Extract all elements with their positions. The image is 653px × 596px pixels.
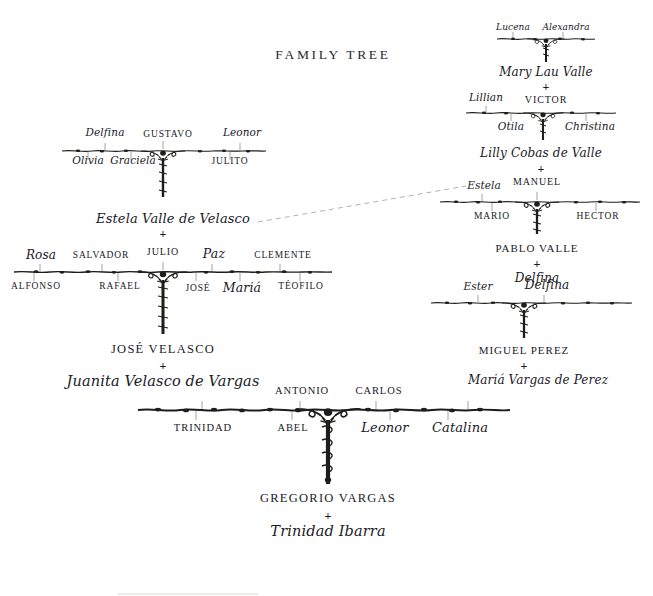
- person-hector: HECTOR: [577, 212, 620, 222]
- link-estela-crossref: [258, 186, 466, 222]
- person-maria-child: Mariá: [223, 282, 261, 295]
- branch-julio: [14, 262, 332, 334]
- person-lilly-cobas-de-valle: Lilly Cobas de Valle: [480, 147, 602, 159]
- branch-miguel-perez: [431, 295, 632, 338]
- union-plus-jose-juanita: +: [160, 360, 167, 372]
- person-graciela: Graciela: [110, 155, 156, 166]
- person-julito: JULITO: [211, 157, 248, 167]
- union-plus-miguel-maria: +: [521, 360, 528, 372]
- person-jose-child: JOSÉ: [185, 284, 210, 294]
- union-plus-pablo-delfina: +: [534, 258, 541, 270]
- person-leonor-bottom: Leonor: [361, 421, 408, 434]
- person-miguel-perez: MIGUEL PEREZ: [479, 345, 570, 356]
- branch-antonio-carlos: [138, 401, 510, 484]
- person-gustavo: GUSTAVO: [143, 130, 192, 140]
- person-antonio: ANTONIO: [275, 386, 329, 397]
- person-carlos: CARLOS: [355, 386, 402, 397]
- person-jose-velasco: JOSÉ VELASCO: [111, 343, 215, 356]
- person-otila: Otila: [498, 121, 524, 132]
- person-rafael: RAFAEL: [99, 282, 140, 292]
- person-estela-valle-de-velasco: Estela Valle de Velasco: [96, 212, 250, 225]
- person-lucena: Lucena: [496, 23, 530, 32]
- union-plus-lilly-manuel: +: [538, 163, 545, 175]
- person-mary-lau-valle: Mary Lau Valle: [499, 66, 593, 78]
- person-trinidad: TRINIDAD: [174, 423, 232, 434]
- person-paz: Paz: [203, 248, 225, 261]
- person-pablo-valle: PABLO VALLE: [495, 243, 578, 254]
- person-catalina: Catalina: [432, 421, 488, 434]
- person-manuel: MANUEL: [513, 177, 561, 187]
- person-leonor-top: Leonor: [223, 127, 261, 138]
- person-abel: ABEL: [277, 423, 308, 434]
- person-victor: VICTOR: [525, 95, 567, 105]
- person-salvador: SALVADOR: [73, 251, 129, 261]
- branch-artwork: [0, 0, 653, 596]
- person-ester: Ester: [463, 281, 492, 292]
- person-mario: MARIO: [474, 212, 510, 222]
- union-plus-estela-julio: +: [160, 228, 167, 240]
- person-rosa: Rosa: [26, 249, 56, 261]
- person-olivia: Olivia: [72, 155, 104, 166]
- person-delfina-perez: Delfina: [525, 279, 570, 291]
- family-tree-canvas: FAMILY TREE Lucena Alexandra Mary Lau Va…: [0, 0, 653, 596]
- person-trinidad-ibarra: Trinidad Ibarra: [270, 524, 385, 539]
- branch-gustavo: [62, 141, 266, 197]
- person-delfina-left: Delfina: [86, 127, 125, 138]
- person-gregorio-vargas: GREGORIO VARGAS: [260, 492, 396, 505]
- page-title: FAMILY TREE: [275, 48, 390, 62]
- person-juanita-velasco-de-vargas: Juanita Velasco de Vargas: [67, 374, 260, 389]
- person-clemente: CLEMENTE: [254, 251, 312, 261]
- person-christina: Christina: [565, 121, 615, 132]
- person-alfonso: ALFONSO: [11, 282, 61, 292]
- union-plus-mary-victor: +: [543, 81, 550, 93]
- branch-lucena-alexandra: [497, 32, 595, 62]
- person-alexandra: Alexandra: [542, 23, 589, 32]
- person-julio: JULIO: [147, 247, 179, 257]
- person-lillian: Lillian: [469, 92, 503, 103]
- person-estela-node: Estela: [467, 180, 501, 191]
- person-maria-vargas-de-perez: Mariá Vargas de Perez: [468, 374, 608, 386]
- person-teofilo: TÉOFILO: [278, 282, 324, 292]
- union-plus-gregorio-trinidad: +: [325, 510, 332, 522]
